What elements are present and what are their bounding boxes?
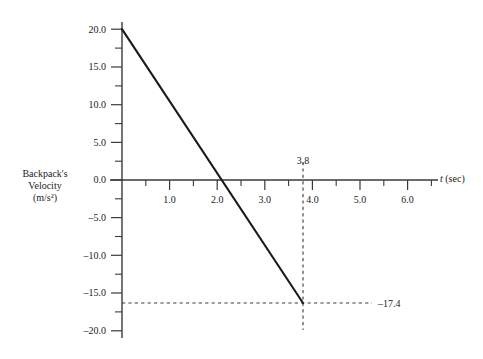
x-axis-title: t (sec) xyxy=(440,173,465,184)
x-axis-unit: (sec) xyxy=(445,173,464,184)
y-axis-title: Backpack's Velocity (m/s²) xyxy=(6,168,84,204)
x-tick-label-6: 6.0 xyxy=(401,194,414,205)
time-marker-label: 3.8 xyxy=(297,155,310,166)
velocity-time-graph-figure: 20.0 15.0 10.0 5.0 0.0 –5.0 –10.0 –15.0 … xyxy=(0,0,483,359)
y-tick-label-20: 20.0 xyxy=(89,24,107,35)
y-axis-major-ticks xyxy=(111,29,122,331)
x-tick-label-5: 5.0 xyxy=(354,194,367,205)
x-tick-label-3: 3.0 xyxy=(259,194,272,205)
y-tick-label-15: 15.0 xyxy=(89,61,107,72)
y-tick-label-neg20: –20.0 xyxy=(83,325,107,336)
y-axis-title-line-3: (m/s²) xyxy=(6,192,84,204)
y-tick-label-10: 10.0 xyxy=(89,99,107,110)
x-tick-label-4: 4.0 xyxy=(306,194,319,205)
velocity-marker-label: –17.4 xyxy=(377,298,401,309)
x-tick-label-2: 2.0 xyxy=(211,194,224,205)
velocity-line-series xyxy=(122,29,303,303)
x-axis-minor-ticks xyxy=(146,180,432,186)
y-tick-label-5: 5.0 xyxy=(94,137,107,148)
y-axis-title-line-1: Backpack's xyxy=(6,168,84,180)
y-tick-label-0: 0.0 xyxy=(94,174,107,185)
y-axis-title-line-2: Velocity xyxy=(6,180,84,192)
y-tick-label-neg15: –15.0 xyxy=(83,287,107,298)
y-tick-label-neg5: –5.0 xyxy=(88,212,107,223)
x-axis-symbol: t xyxy=(440,173,443,184)
x-tick-label-1: 1.0 xyxy=(163,194,176,205)
y-tick-label-neg10: –10.0 xyxy=(83,250,107,261)
